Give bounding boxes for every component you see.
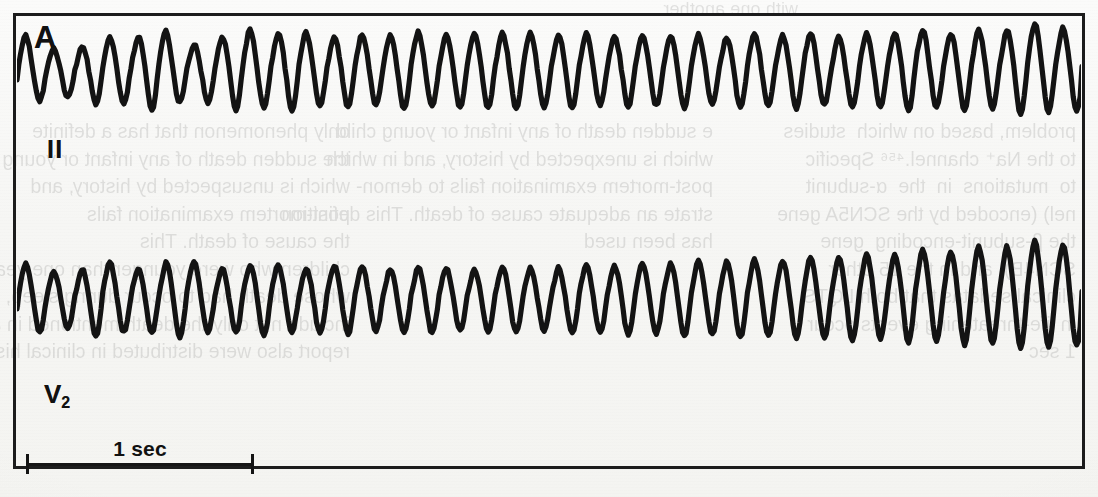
ecg-trace-lead-II bbox=[17, 24, 1082, 114]
scale-bar-label: 1 sec bbox=[24, 437, 256, 461]
figure-page: with one another. problem, based on whic… bbox=[0, 0, 1098, 497]
panel-label-a: A bbox=[34, 22, 56, 53]
ecg-trace-canvas bbox=[0, 0, 1098, 497]
lead-label-v2-subscript: 2 bbox=[61, 394, 70, 411]
scale-bar-tick-left bbox=[26, 454, 29, 474]
lead-label-v2: V2 bbox=[44, 381, 70, 411]
scale-bar-rule bbox=[26, 463, 254, 466]
time-scale-bar: 1 sec bbox=[24, 437, 256, 471]
lead-label-v2-letter: V bbox=[44, 379, 61, 409]
lead-label-ii: II bbox=[47, 137, 63, 162]
scale-bar-tick-right bbox=[251, 454, 254, 474]
ecg-trace-lead-V2 bbox=[17, 240, 1082, 348]
